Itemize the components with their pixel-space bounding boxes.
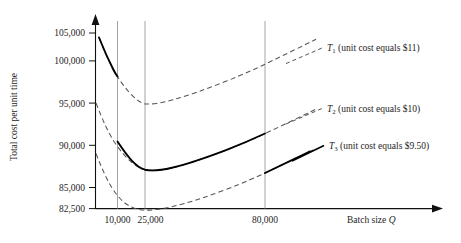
curve-t2-dashed — [96, 103, 316, 171]
curve-label-t3-text: (unit cost equals $9.50) — [340, 141, 429, 152]
curve-label-t1: T1 (unit cost equals $11) — [327, 43, 420, 55]
curve-effective-segment-t1 — [99, 38, 118, 77]
y-tick-label-100000: 100,000 — [54, 56, 85, 66]
x-tick-label-25000: 25,000 — [137, 215, 163, 225]
curve-effective-segment-t2 — [118, 134, 266, 171]
curve-label-t3: T3 (unit cost equals $9.50) — [329, 141, 429, 153]
x-axis — [96, 205, 444, 213]
chart-svg: 105,000 100,000 95,000 90,000 85,000 82,… — [0, 0, 461, 243]
y-axis — [92, 14, 100, 209]
y-tick-label-105000: 105,000 — [54, 28, 85, 38]
x-axis-title: Batch size Q — [347, 215, 396, 225]
y-tick-label-95000: 95,000 — [59, 99, 85, 109]
y-axis-title-text: Total cost per unit time — [9, 73, 19, 161]
x-tick-label-10000: 10,000 — [104, 215, 130, 225]
curve-label-t1-text: (unit cost equals $11) — [338, 43, 420, 54]
leader-line-t1 — [286, 48, 322, 64]
svg-text:T1 (unit cost equals $11): T1 (unit cost equals $11) — [327, 43, 420, 55]
y-tick-label-90000: 90,000 — [59, 141, 85, 151]
x-axis-title-symbol: Q — [389, 215, 396, 225]
y-tick-label-85000: 85,000 — [59, 183, 85, 193]
leader-line-t2 — [286, 109, 322, 125]
x-tick-label-80000: 80,000 — [252, 215, 278, 225]
y-tick-labels: 105,000 100,000 95,000 90,000 85,000 82,… — [54, 28, 85, 214]
curve-label-t2-text: (unit cost equals $10) — [338, 104, 420, 115]
y-axis-title: Total cost per unit time — [9, 73, 19, 161]
x-tick-labels: 10,000 25,000 80,000 — [104, 215, 278, 225]
x-axis-title-text: Batch size — [347, 215, 386, 225]
y-tick-label-82500: 82,500 — [59, 204, 85, 214]
svg-text:T2 (unit cost equals $10): T2 (unit cost equals $10) — [327, 104, 420, 116]
x-axis-arrowhead — [432, 205, 443, 213]
chart-container: 105,000 100,000 95,000 90,000 85,000 82,… — [0, 0, 461, 243]
y-axis-arrowhead — [92, 14, 100, 25]
svg-text:Batch size Q: Batch size Q — [347, 215, 396, 225]
curve-label-t2: T2 (unit cost equals $10) — [327, 104, 420, 116]
leader-line-t3 — [292, 146, 324, 162]
y-tick-marks — [89, 33, 96, 209]
curve-t1-dashed — [99, 38, 316, 105]
svg-text:T3 (unit cost equals $9.50): T3 (unit cost equals $9.50) — [329, 141, 429, 153]
vertical-reference-lines — [118, 21, 266, 209]
